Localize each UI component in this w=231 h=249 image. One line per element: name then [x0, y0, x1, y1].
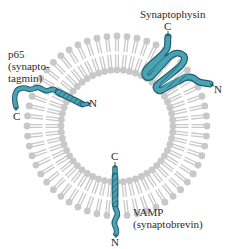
vamp-label-line-2: (synaptobrevin)	[133, 218, 203, 230]
synaptophysin-n-terminus: N	[214, 84, 222, 95]
p65-label-line-1: p65	[8, 48, 50, 60]
vamp-label: VAMP (synaptobrevin)	[133, 206, 203, 230]
synaptophysin-label: Synaptophysin	[140, 8, 205, 20]
vamp-label-line-1: VAMP	[133, 206, 203, 218]
synaptophysin-c-terminus: C	[164, 21, 171, 32]
p65-label: p65 (synapto- tagmin)	[8, 48, 50, 84]
p65-label-line-2: (synapto-	[8, 60, 50, 72]
p65-c-terminus: C	[13, 111, 20, 122]
vamp-c-terminus: C	[111, 151, 118, 162]
vesicle-diagram: p65 (synapto- tagmin) C N Synaptophysin …	[0, 0, 231, 249]
vamp-n-terminus: N	[111, 237, 119, 248]
p65-protein	[15, 88, 92, 111]
vamp-protein	[114, 162, 117, 238]
p65-n-terminus: N	[89, 98, 97, 109]
p65-label-line-3: tagmin)	[8, 72, 50, 84]
